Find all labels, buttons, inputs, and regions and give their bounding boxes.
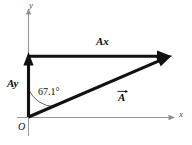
resultant-vector-label: A	[118, 92, 125, 103]
vector-diagram-figure: y x O Ay Ax 67.1° A	[0, 0, 192, 145]
vector-ay-arrowhead-icon	[23, 52, 33, 66]
resultant-vector-symbol-wrap: A	[118, 92, 125, 103]
vector-a-arrowhead-icon	[156, 56, 172, 67]
vector-ax-group	[29, 51, 173, 62]
x-axis-label: x	[179, 110, 183, 119]
vector-ay-group	[23, 52, 33, 117]
origin-label: O	[18, 122, 25, 132]
diagram-canvas	[0, 0, 192, 145]
y-component-label: Ay	[7, 78, 18, 89]
angle-label: 67.1°	[38, 87, 60, 97]
resultant-vector-letter: A	[118, 91, 125, 103]
x-component-label: Ax	[96, 36, 109, 47]
axes-group	[17, 9, 175, 137]
x-axis-arrowhead-icon	[169, 115, 176, 120]
y-axis-label: y	[29, 1, 33, 10]
